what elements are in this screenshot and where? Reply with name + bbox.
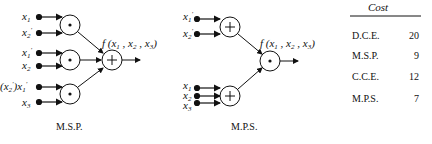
logic-diagrams: x1 x2′ x1′ x2 (x2′)x1′ x3 — [0, 0, 432, 144]
msp-input-x2p-x1p: (x2′)x1′ — [0, 80, 28, 94]
msp-caption: M.S.P. — [56, 121, 82, 132]
cost-table: Cost D.C.E. 20 M.S.P. 9 C.C.E. 12 M.P.S.… — [350, 1, 421, 104]
row-label: C.C.E. — [352, 71, 379, 82]
cost-header: Cost — [368, 1, 389, 13]
msp-input-x3: x3 — [21, 96, 31, 110]
msp-input-x2p: x2′ — [21, 26, 32, 40]
mps-input-x1p: x1′ — [182, 10, 193, 24]
row-value: 9 — [414, 50, 419, 61]
mps-caption: M.P.S. — [231, 121, 257, 132]
mps-input-x2p: x2′ — [182, 27, 193, 41]
msp-input-x1p: x1′ — [21, 46, 32, 60]
mps-diagram: x1′ x2′ x1 x2 x3 f (x1 , x2 , x3) M. — [182, 10, 315, 132]
row-value: 7 — [414, 93, 419, 104]
msp-output-label: f (x1 , x2 , x3) — [102, 37, 157, 51]
row-label: M.S.P. — [352, 50, 378, 61]
mps-output-label: f (x1 , x2 , x3) — [260, 37, 315, 51]
row-label: M.P.S. — [352, 93, 378, 104]
msp-input-x2: x2 — [21, 59, 31, 73]
row-value: 12 — [409, 71, 419, 82]
row-value: 20 — [409, 30, 419, 41]
msp-input-x1: x1 — [21, 10, 30, 24]
msp-diagram: x1 x2′ x1′ x2 (x2′)x1′ x3 — [0, 10, 157, 132]
row-label: D.C.E. — [352, 30, 380, 41]
